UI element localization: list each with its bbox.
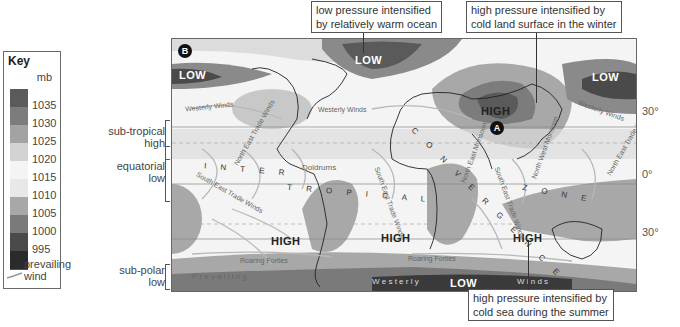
legend-swatch xyxy=(10,143,28,162)
legend-swatch-label: 1010 xyxy=(32,189,56,201)
legend-unit: mb xyxy=(37,71,52,83)
leader-line-bottom xyxy=(528,240,529,290)
legend-title: Key xyxy=(8,54,30,68)
wind-roaring-forties-2: Roaring Forties xyxy=(408,255,456,262)
leader-line-top-right xyxy=(536,33,537,103)
legend-swatch-label: 1030 xyxy=(32,117,56,129)
legend-swatch-label: 1005 xyxy=(32,207,56,219)
legend-swatch xyxy=(10,179,28,198)
wind-winds-south: W i n d s xyxy=(517,277,548,286)
label-low-pacific-west: LOW xyxy=(179,69,206,81)
legend-swatch-label: 1025 xyxy=(32,135,56,147)
marker-b: B xyxy=(178,44,192,58)
callout-cold-sea-high: high pressure intensified by cold sea du… xyxy=(468,289,614,321)
leader-line-top-left xyxy=(363,33,364,53)
legend-swatch xyxy=(10,89,28,108)
legend-swatch-label: 1035 xyxy=(32,99,56,111)
bracket-subpolar xyxy=(165,264,170,290)
latitude-30s: 30° xyxy=(642,226,659,238)
legend-swatch-label: 1020 xyxy=(32,153,56,165)
label-high-south-pacific: HIGH xyxy=(271,235,301,247)
band-subpolar-low: sub-polar low xyxy=(100,264,165,288)
band-subtropical-high: sub-tropical high xyxy=(100,125,165,149)
label-low-atlantic: LOW xyxy=(355,54,382,66)
wind-roaring-forties-1: Roaring Forties xyxy=(240,257,288,264)
legend-swatch xyxy=(10,215,28,234)
latitude-30n: 30° xyxy=(642,105,659,117)
label-low-pacific-east: LOW xyxy=(592,71,619,83)
legend-swatch xyxy=(10,107,28,126)
legend-swatch-label: 995 xyxy=(32,243,50,255)
legend-swatch xyxy=(10,233,28,252)
marker-a: A xyxy=(490,121,504,135)
callout-cold-land-high: high pressure intensified by cold land s… xyxy=(466,1,622,33)
prevailing-wind-arrow-icon xyxy=(6,270,24,280)
legend-wind-label-2: wind xyxy=(24,270,47,282)
legend-swatch xyxy=(10,125,28,144)
legend-swatch-label: 1000 xyxy=(32,225,56,237)
callout-warm-ocean-low: low pressure intensified by relatively w… xyxy=(311,1,442,33)
wind-westerly-2: Westerly Winds xyxy=(318,106,367,113)
wind-prevailing: P r e v a i l i n g xyxy=(192,272,247,281)
legend-swatch-label: 1015 xyxy=(32,171,56,183)
legend-key: Key mb 103510301025102010151010100510009… xyxy=(3,51,61,289)
wind-doldrums: Doldrums xyxy=(302,163,336,172)
bracket-equatorial xyxy=(165,146,170,202)
wind-westerly-south: W e s t e r l y xyxy=(372,277,419,286)
legend-swatch xyxy=(10,197,28,216)
world-pressure-map: B A LOW LOW HIGH LOW HIGH HIGH HIGH LOW … xyxy=(171,38,637,292)
label-low-southern-ocean: LOW xyxy=(450,277,477,289)
latitude-equator: 0° xyxy=(642,168,653,180)
band-equatorial-low: equatorial low xyxy=(100,160,165,184)
legend-wind-label-1: prevailing xyxy=(24,258,71,270)
label-high-siberia: HIGH xyxy=(481,105,511,117)
legend-swatch xyxy=(10,161,28,180)
label-high-south-atlantic: HIGH xyxy=(381,232,411,244)
